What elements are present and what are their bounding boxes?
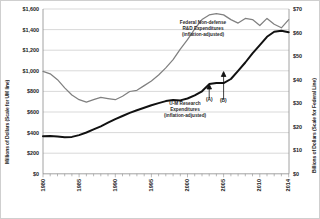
federal-label-line3: (inflation-adjusted) xyxy=(169,32,237,38)
x-tick: 2000 xyxy=(185,179,191,191)
x-tick: 1990 xyxy=(113,179,119,191)
x-tick: 2014 xyxy=(286,179,292,191)
um-series-label: U-M Research Expenditures (inflation-adj… xyxy=(153,101,217,119)
x-tick: 2010 xyxy=(257,179,263,191)
series-um-research xyxy=(43,31,289,138)
x-tick: 1980 xyxy=(41,179,47,191)
x-tick: 1995 xyxy=(149,179,155,191)
x-tick: 2005 xyxy=(221,179,227,191)
annotation-arrows xyxy=(207,72,226,99)
annotation-marker-b: (B) xyxy=(220,98,227,103)
federal-series-label: Federal Non-defense R&D Expenditures (in… xyxy=(169,20,237,38)
annotation-marker-a: (A) xyxy=(206,97,213,102)
x-tick: 1985 xyxy=(77,179,83,191)
gridlines xyxy=(43,9,289,153)
um-label-line3: (inflation-adjusted) xyxy=(153,113,217,119)
arrow-b-head xyxy=(221,72,226,77)
x-tick-labels: 1980 1985 1990 1995 2000 2005 2010 2014 xyxy=(1,179,320,205)
series-federal-nondefense xyxy=(43,14,289,102)
chart-figure: Millions of Dollars (Scale for UM line) … xyxy=(0,0,320,219)
x-tickmarks xyxy=(43,174,289,178)
